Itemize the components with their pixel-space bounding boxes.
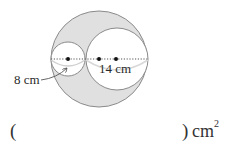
unit-exponent: 2	[214, 118, 219, 129]
answer-unit: cm2	[192, 121, 219, 142]
large-diameter-label: 14 cm	[99, 61, 131, 76]
unit-text: cm	[192, 121, 214, 141]
small-diameter-label: 8 cm	[14, 72, 40, 87]
answer-open-paren: (	[10, 120, 16, 142]
answer-row: ( ) cm2	[0, 118, 228, 146]
small-circle-center-dot	[66, 57, 70, 61]
answer-close-paren: )	[182, 120, 188, 142]
